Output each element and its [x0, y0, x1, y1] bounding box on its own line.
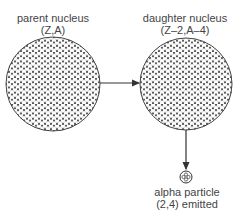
alpha-label: alpha particle (2,4) emitted: [140, 186, 234, 210]
alpha-za: (2,4) emitted: [140, 198, 234, 210]
decay-diagram: [0, 0, 234, 216]
alpha-name: alpha particle: [140, 186, 234, 198]
parent-nucleus-icon: [6, 37, 100, 131]
daughter-nucleus-icon: [140, 38, 232, 130]
alpha-particle-icon: [180, 171, 192, 183]
